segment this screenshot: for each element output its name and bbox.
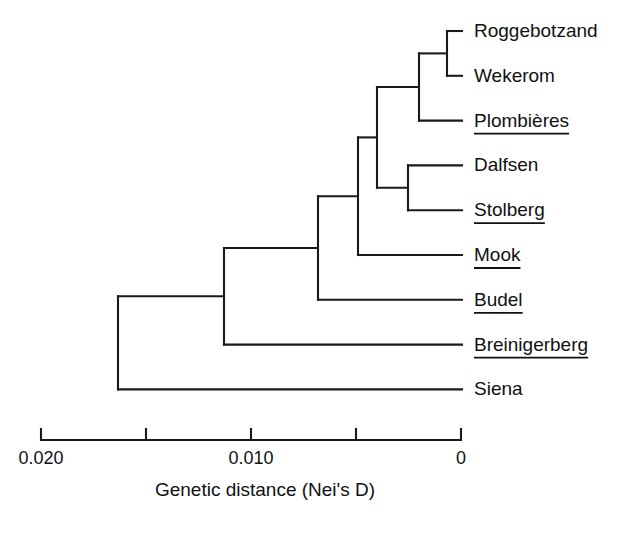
dendrogram-figure: RoggebotzandWekeromPlombièresDalfsenStol… bbox=[0, 0, 635, 533]
leaf-label: Stolberg bbox=[474, 199, 545, 220]
leaf-label-layer: RoggebotzandWekeromPlombièresDalfsenStol… bbox=[474, 20, 598, 399]
leaf-label: Plombières bbox=[474, 110, 569, 131]
leaf-label: Roggebotzand bbox=[474, 20, 598, 41]
leaf-label: Budel bbox=[474, 289, 523, 310]
leaf-label: Siena bbox=[474, 378, 523, 399]
x-axis: 0.0200.0100 bbox=[18, 429, 466, 468]
leaf-label: Wekerom bbox=[474, 65, 555, 86]
x-axis-tick-label: 0 bbox=[456, 448, 466, 468]
leaf-label: Breinigerberg bbox=[474, 334, 588, 355]
leaf-label: Mook bbox=[474, 244, 521, 265]
x-axis-tick-label: 0.010 bbox=[228, 448, 273, 468]
x-axis-title: Genetic distance (Nei's D) bbox=[155, 479, 375, 500]
leaf-label: Dalfsen bbox=[474, 154, 538, 175]
tree-branch-layer bbox=[118, 31, 462, 389]
dendrogram-canvas: RoggebotzandWekeromPlombièresDalfsenStol… bbox=[0, 0, 635, 533]
x-axis-tick-label: 0.020 bbox=[18, 448, 63, 468]
